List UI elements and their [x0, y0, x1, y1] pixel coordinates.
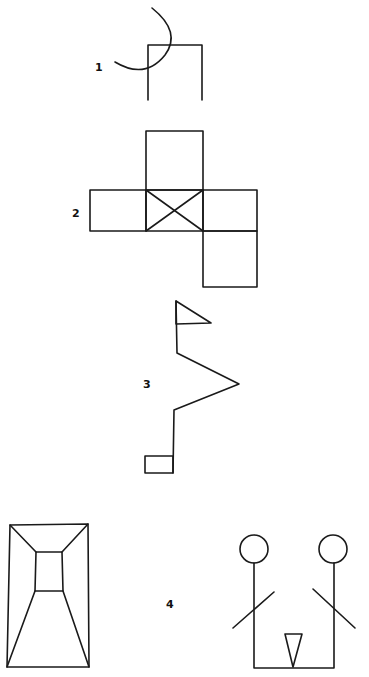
top-square	[146, 131, 203, 190]
right-figure-head	[319, 535, 347, 563]
corridor-edge-top-right	[62, 524, 88, 552]
base-rectangle	[145, 456, 173, 473]
figure-sheet: 1 2 3 4	[0, 0, 369, 677]
figure-2: 2	[72, 131, 257, 287]
figure-3: 3	[143, 301, 239, 473]
arc-shape	[115, 8, 171, 70]
corridor-outer-frame	[7, 524, 89, 667]
flag-shape	[176, 301, 211, 324]
corridor-edge-top-left	[10, 525, 36, 552]
figure-3-label: 3	[143, 378, 151, 391]
left-square	[90, 190, 146, 231]
right-square	[203, 190, 257, 231]
corridor-inner-square	[35, 552, 63, 591]
left-figure-head	[240, 535, 268, 563]
zigzag-line	[173, 301, 239, 473]
bottom-square	[203, 231, 257, 287]
figure-4-label: 4	[166, 598, 174, 611]
figure-1: 1	[95, 8, 202, 100]
figures-body-frame	[254, 563, 334, 668]
corridor-edge-bottom-left	[7, 591, 35, 667]
figure-4: 4	[7, 524, 355, 668]
open-square-shape	[148, 45, 202, 100]
corridor-edge-bottom-right	[63, 591, 89, 667]
center-triangle	[285, 634, 302, 667]
figure-2-label: 2	[72, 207, 80, 220]
figure-1-label: 1	[95, 61, 103, 74]
